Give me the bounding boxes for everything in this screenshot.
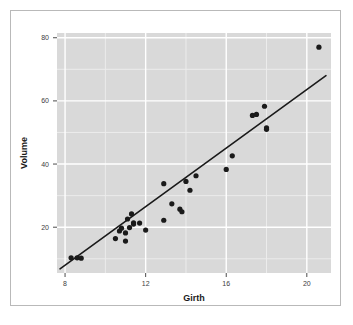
data-point[interactable] <box>123 239 128 244</box>
x-axis-title: Girth <box>183 293 205 303</box>
data-point[interactable] <box>169 201 174 206</box>
y-tick-label: 40 <box>41 161 49 168</box>
data-point[interactable] <box>161 181 166 186</box>
data-point[interactable] <box>193 173 198 178</box>
data-point[interactable] <box>127 225 132 230</box>
plot-frame: 812162020406080GirthVolume <box>10 10 341 306</box>
data-point[interactable] <box>131 220 136 225</box>
data-point[interactable] <box>183 179 188 184</box>
y-tick-label: 60 <box>41 97 49 104</box>
x-tick-label: 16 <box>222 280 230 287</box>
data-point[interactable] <box>316 45 321 50</box>
x-tick-label: 20 <box>303 280 311 287</box>
data-point[interactable] <box>143 227 148 232</box>
data-point[interactable] <box>119 226 124 231</box>
data-point[interactable] <box>137 221 142 226</box>
y-tick-label: 20 <box>41 224 49 231</box>
x-tick-label: 12 <box>142 280 150 287</box>
data-point[interactable] <box>113 236 118 241</box>
scatter-plot[interactable]: 812162020406080GirthVolume <box>11 11 340 305</box>
data-point[interactable] <box>123 230 128 235</box>
data-point[interactable] <box>69 255 74 260</box>
data-point[interactable] <box>224 167 229 172</box>
data-point[interactable] <box>129 211 134 216</box>
figure-canvas: 812162020406080GirthVolume <box>0 0 353 325</box>
data-point[interactable] <box>179 209 184 214</box>
data-point[interactable] <box>79 256 84 261</box>
data-point[interactable] <box>125 216 130 221</box>
y-axis-title: Volume <box>19 137 29 169</box>
data-point[interactable] <box>254 112 259 117</box>
data-point[interactable] <box>262 104 267 109</box>
x-tick-label: 8 <box>63 280 67 287</box>
data-point[interactable] <box>230 153 235 158</box>
y-tick-label: 80 <box>41 34 49 41</box>
data-point[interactable] <box>264 127 269 132</box>
data-point[interactable] <box>161 218 166 223</box>
data-point[interactable] <box>187 188 192 193</box>
